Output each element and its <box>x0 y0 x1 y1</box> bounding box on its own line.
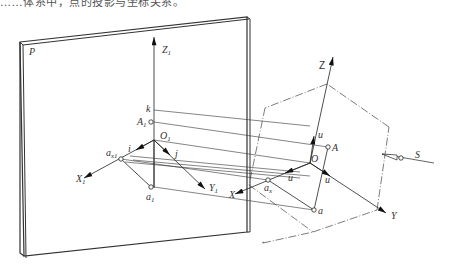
point-a1 <box>149 185 153 189</box>
projection-direction-s <box>382 154 434 163</box>
label-X: X <box>228 189 236 200</box>
point-A <box>326 145 330 149</box>
label-S: S <box>415 149 420 160</box>
label-Y: Y <box>391 210 398 221</box>
projection-plane-p <box>20 17 250 258</box>
label-a: a <box>318 205 323 216</box>
label-ax: ax <box>264 182 273 195</box>
label-O: O <box>311 153 318 164</box>
label-k: k <box>146 103 151 114</box>
point-ax1 <box>119 157 123 161</box>
label-u-x: u <box>288 172 293 183</box>
space-axes <box>235 57 386 213</box>
label-u-z: u <box>318 129 323 140</box>
hexagon-outline <box>249 84 389 243</box>
point-a <box>312 208 316 212</box>
label-u-y: u <box>325 174 330 185</box>
label-i: i <box>128 143 131 154</box>
label-plane-p: P <box>28 46 35 57</box>
label-Z: Z <box>319 60 325 71</box>
point-s <box>399 156 403 160</box>
label-A: A <box>331 142 339 153</box>
point-a1-upper <box>149 120 153 124</box>
projection-diagram: P Z1 k A1 O1 ax1 i j X1 Y1 a1 Z u A O u … <box>0 0 451 271</box>
